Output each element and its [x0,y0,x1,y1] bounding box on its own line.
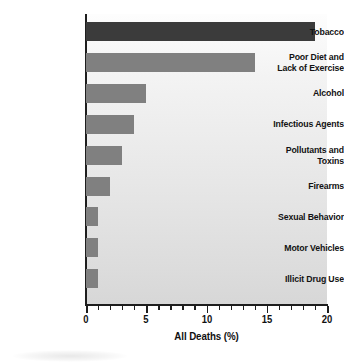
x-tick-minor [219,306,220,310]
x-tick-label: 5 [133,313,160,325]
x-tick-major [207,306,209,313]
bar-motor-vehicles [86,238,98,257]
x-tick-label: 20 [314,313,341,325]
category-label-line: Alcohol [269,87,344,98]
x-tick-minor [315,306,316,310]
x-tick-minor [98,306,99,310]
category-label-line: Pollutants and [269,144,344,155]
category-label-line: Firearms [269,180,344,191]
bar-infectious-agents [86,115,134,134]
category-label-line: Sexual Behavior [269,211,344,222]
x-tick-major [146,306,148,313]
category-label: Motor Vehicles [269,242,344,253]
category-label: Poor Diet andLack of Exercise [269,51,344,73]
x-tick-minor [134,306,135,310]
bar-chart-figure: TobaccoPoor Diet andLack of ExerciseAlco… [0,0,344,363]
category-label-line: Lack of Exercise [269,62,344,73]
bar-firearms [86,177,110,196]
x-tick-minor [110,306,111,310]
category-label: Firearms [269,180,344,191]
x-tick-minor [291,306,292,310]
x-tick-minor [170,306,171,310]
x-tick-label: 0 [73,313,100,325]
bar-poor-diet-and-lack-of-exercise [86,53,255,72]
x-tick-minor [279,306,280,310]
category-label: Alcohol [269,87,344,98]
x-tick-minor [194,306,195,310]
bar-alcohol [86,84,146,103]
x-tick-minor [231,306,232,310]
bar-pollutants-and-toxins [86,146,122,165]
category-label-line: Poor Diet and [269,51,344,62]
x-tick-minor [303,306,304,310]
x-tick-minor [255,306,256,310]
scan-shadow-artifact [12,350,128,362]
category-label: Pollutants andToxins [269,144,344,166]
category-label-line: Tobacco [269,26,344,37]
x-tick-major [267,306,269,313]
bar-sexual-behavior [86,207,98,226]
x-tick-minor [122,306,123,310]
x-tick-minor [182,306,183,310]
category-label-line: Illicit Drug Use [269,273,344,284]
category-label-line: Motor Vehicles [269,242,344,253]
category-label: Infectious Agents [269,118,344,129]
category-label: Illicit Drug Use [269,273,344,284]
x-tick-minor [158,306,159,310]
category-label-line: Toxins [269,155,344,166]
x-tick-label: 10 [193,313,220,325]
x-axis-title: All Deaths (%) [94,330,318,342]
category-label-line: Infectious Agents [269,118,344,129]
x-tick-label: 15 [253,313,280,325]
x-tick-minor [243,306,244,310]
category-label: Sexual Behavior [269,211,344,222]
bar-illicit-drug-use [86,269,98,288]
category-label: Tobacco [269,26,344,37]
x-tick-major [86,306,88,313]
x-tick-major [327,306,329,313]
